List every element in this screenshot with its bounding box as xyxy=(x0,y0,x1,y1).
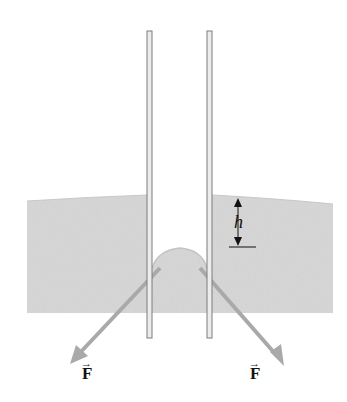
vector-arrow-icon: → xyxy=(249,357,260,369)
force-label-right: → F xyxy=(250,364,260,384)
capillary-diagram xyxy=(0,0,347,402)
height-label: h xyxy=(234,212,243,233)
tube-wall-right xyxy=(207,31,212,338)
vector-arrow-icon: → xyxy=(81,357,92,369)
tube-wall-left xyxy=(147,31,152,338)
liquid-texture xyxy=(27,195,333,313)
force-label-left: → F xyxy=(82,364,92,384)
